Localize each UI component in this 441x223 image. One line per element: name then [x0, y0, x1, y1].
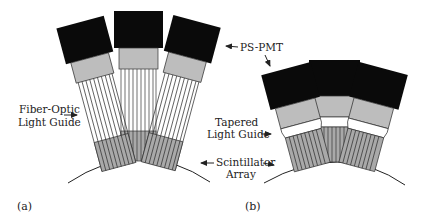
- pmt-window: [119, 48, 158, 69]
- panel-a-label: (a): [17, 200, 32, 213]
- fiber-optic-label-line2: Light Guide: [18, 116, 81, 128]
- ps-pmt-arrow-down: [265, 55, 270, 66]
- fiber-optic-label-line1: Fiber-Optic: [19, 103, 80, 115]
- gantry-arc-a: [68, 159, 210, 183]
- panel-a: Fiber-Optic Light Guide (a): [17, 11, 221, 213]
- pmt-window: [314, 96, 355, 117]
- scintillator-label-line1: Scintillator: [216, 156, 276, 168]
- ps-pmt-arrow-left: [226, 46, 238, 47]
- panel-b-label: (b): [245, 200, 261, 213]
- ps-pmt-block: [114, 11, 163, 48]
- scintillator-label-line2: Array: [225, 168, 256, 180]
- ps-pmt-label: PS-PMT: [240, 41, 283, 53]
- tapered-label-line1: Tapered: [215, 116, 259, 128]
- gantry-arc-b: [264, 162, 405, 185]
- detector-diagram: Fiber-Optic Light Guide (a): [0, 0, 441, 223]
- tapered-label-line2: Light Guide: [207, 128, 270, 140]
- panel-b: PS-PMT Tapered Light Guide Scintillator …: [201, 41, 408, 213]
